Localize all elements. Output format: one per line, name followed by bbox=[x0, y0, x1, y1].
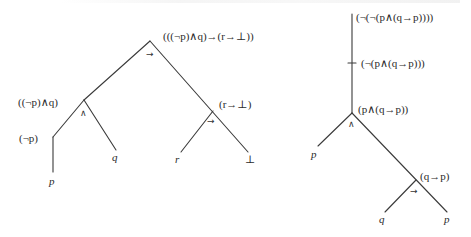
node-operator-n1: ∧ bbox=[80, 108, 87, 118]
left-root-operator: → bbox=[146, 49, 154, 59]
leaf-k2: q bbox=[379, 213, 385, 226]
leaf-k3: p bbox=[444, 213, 450, 226]
node-label-n2: (r→⊥) bbox=[219, 98, 251, 111]
node-label-n1: ((¬p)∧q) bbox=[18, 96, 58, 109]
node-label-n3: (¬p) bbox=[19, 132, 38, 145]
leaf-l4: ⊥ bbox=[245, 153, 255, 166]
edge-root-left bbox=[84, 41, 150, 100]
node-operator-m3: → bbox=[410, 186, 418, 196]
leaf-l3: r bbox=[175, 153, 179, 166]
node-label-m3: (q→p) bbox=[420, 170, 449, 183]
left-root-label: (((¬p)∧q)→(r→⊥)) bbox=[163, 30, 254, 43]
node-operator-m2: ∧ bbox=[348, 119, 355, 129]
edge-imp2-left bbox=[385, 180, 416, 212]
edge-and2-left bbox=[318, 113, 352, 146]
leaf-l2: q bbox=[112, 151, 118, 164]
node-operator-n2: → bbox=[207, 116, 215, 126]
edge-and-right bbox=[84, 100, 116, 150]
right-root-label: (¬(¬(p∧(q→p)))) bbox=[356, 11, 433, 24]
node-label-m2: (p∧(q→p)) bbox=[358, 103, 408, 116]
node-label-m1: (¬(p∧(q→p))) bbox=[361, 57, 425, 70]
edge-root-right bbox=[150, 41, 248, 152]
leaf-k1: p bbox=[311, 148, 317, 161]
leaf-l1: p bbox=[49, 175, 55, 188]
